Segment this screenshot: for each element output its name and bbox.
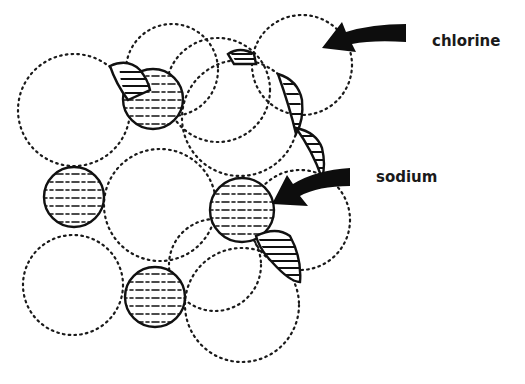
sodium-atom — [40, 167, 108, 227]
chlorine-atom — [104, 149, 216, 261]
sodium-atom-partial — [254, 231, 304, 282]
sodium-atom-partial — [276, 74, 306, 134]
chlorine-arrow — [322, 22, 406, 52]
chlorine-label: chlorine — [432, 32, 500, 50]
chlorine-atom — [23, 235, 123, 335]
sodium-label: sodium — [376, 168, 437, 186]
nacl-lattice-diagram: chlorine sodium — [0, 0, 525, 384]
sodium-atom — [120, 267, 190, 327]
